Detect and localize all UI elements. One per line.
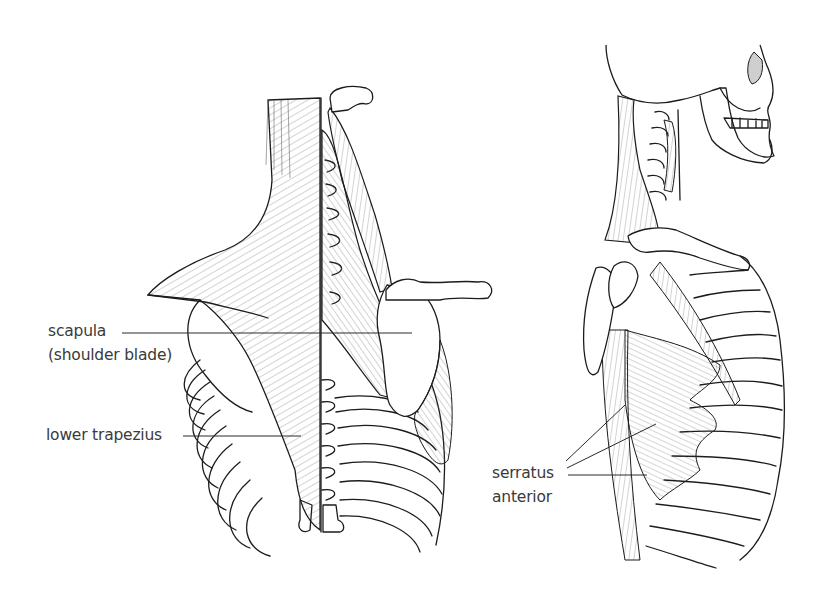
- ribs-left: [184, 360, 270, 556]
- label-scapula-line2: (shoulder blade): [48, 346, 172, 364]
- lateral-view: [584, 45, 785, 568]
- label-serratus-line2: anterior: [492, 488, 554, 506]
- label-lower-trapezius: lower trapezius: [46, 426, 162, 444]
- clavicle: [628, 228, 750, 270]
- trapezius-muscle: [148, 98, 320, 530]
- label-scapula: scapula (shoulder blade): [48, 322, 172, 364]
- label-serratus-line1: serratus: [492, 464, 554, 482]
- label-scapula-line1: scapula: [48, 322, 172, 340]
- humeral-head: [609, 262, 638, 308]
- posterior-back-view: [148, 86, 492, 556]
- anatomy-illustration: [0, 0, 839, 606]
- vertebra-top: [330, 86, 373, 112]
- sternocleidomastoid-neck: [605, 96, 660, 245]
- rib-cage: [740, 256, 784, 560]
- acromion: [386, 279, 492, 300]
- label-serratus-anterior: serratus anterior: [492, 464, 554, 506]
